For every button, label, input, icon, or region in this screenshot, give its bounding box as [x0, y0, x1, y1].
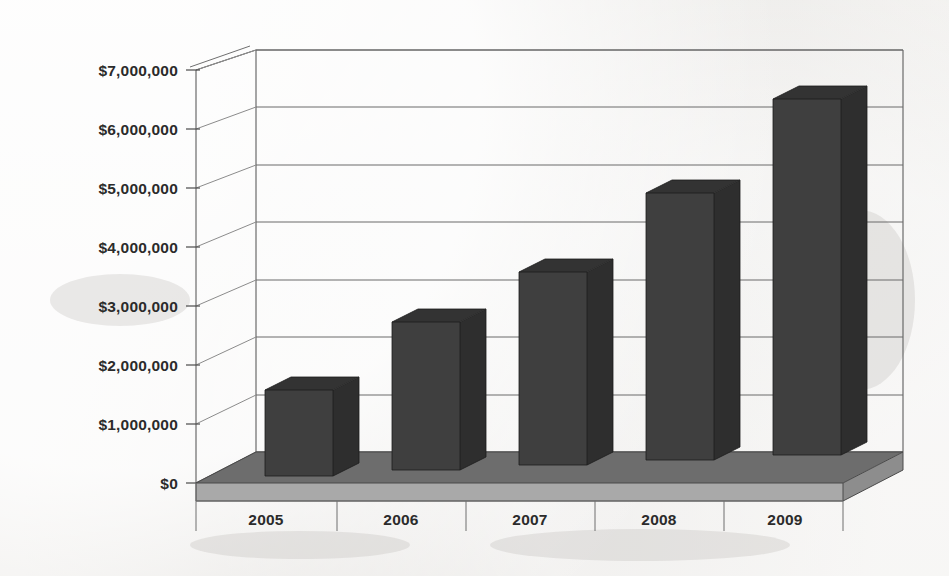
y-tick-label: $3,000,000: [98, 298, 178, 315]
y-tickmarks: [186, 70, 200, 483]
bar-2009[interactable]: [773, 86, 867, 455]
chart-canvas: $7,000,000 $6,000,000 $5,000,000 $4,000,…: [0, 0, 949, 576]
bar-2006[interactable]: [392, 309, 486, 470]
y-tick-label: $2,000,000: [98, 357, 178, 374]
bar-2008[interactable]: [646, 180, 740, 460]
y-tick-label: $1,000,000: [98, 416, 178, 433]
bar-2005[interactable]: [265, 377, 359, 476]
y-tick-label: $4,000,000: [98, 239, 178, 256]
x-tick-label-2005: 2005: [248, 511, 283, 528]
x-axis-labels: 2005 2006 2007 2008 2009: [248, 511, 802, 528]
plot-left-wall: [190, 46, 256, 483]
bar-2007[interactable]: [519, 259, 613, 465]
x-tick-label-2007: 2007: [512, 511, 547, 528]
x-tick-label-2009: 2009: [767, 511, 802, 528]
x-tick-label-2008: 2008: [641, 511, 676, 528]
chart-3d-column: $7,000,000 $6,000,000 $5,000,000 $4,000,…: [0, 0, 949, 576]
y-tick-label: $5,000,000: [98, 180, 178, 197]
y-tick-label: $7,000,000: [98, 62, 178, 79]
y-tick-label: $0: [160, 475, 178, 492]
y-tick-label: $6,000,000: [98, 121, 178, 138]
x-tick-label-2006: 2006: [383, 511, 418, 528]
